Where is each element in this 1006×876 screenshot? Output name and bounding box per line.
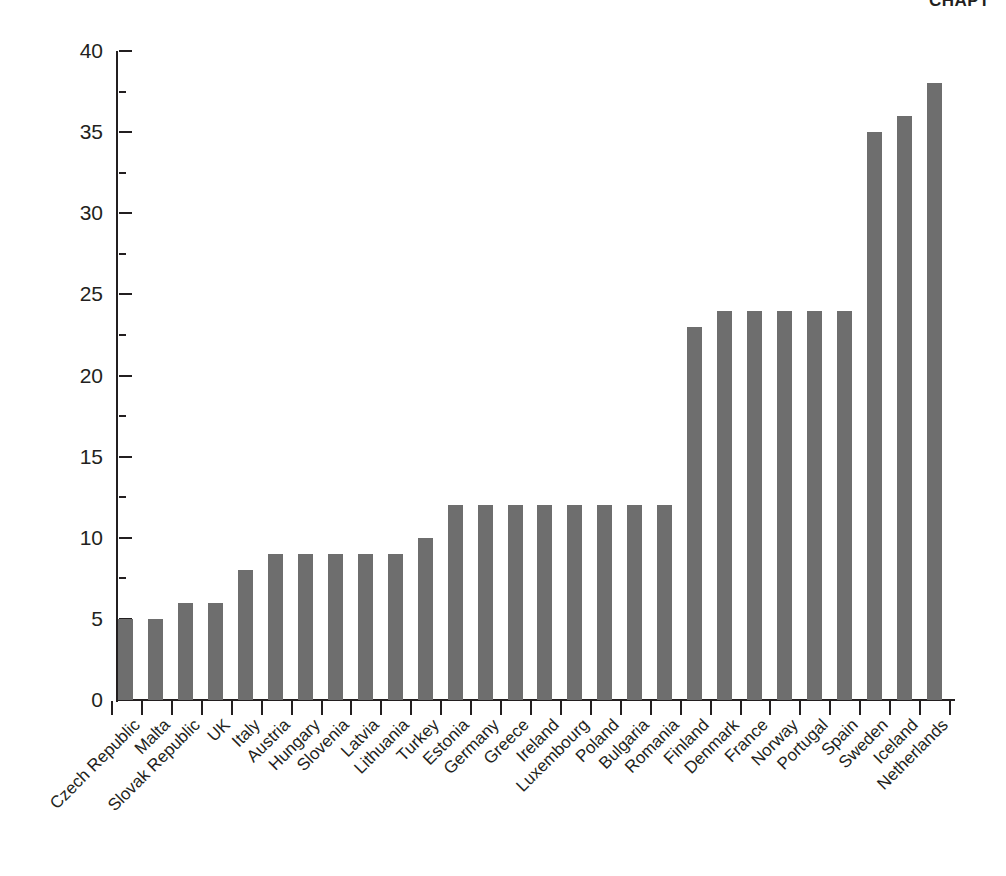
bar: [508, 505, 523, 700]
bar: [837, 311, 852, 700]
bar: [238, 570, 253, 700]
y-axis-tick-label: 40: [47, 40, 103, 61]
bar: [927, 83, 942, 700]
bar: [567, 505, 582, 700]
bar: [627, 505, 642, 700]
bar: [478, 505, 493, 700]
bar: [867, 132, 882, 700]
bar-series: [117, 51, 955, 700]
y-axis-tick-label: 25: [47, 283, 103, 304]
y-axis-tick-label: 20: [47, 365, 103, 386]
bar: [298, 554, 313, 700]
y-axis-tick-label: 15: [47, 446, 103, 467]
y-axis-tick-label: 30: [47, 202, 103, 223]
bar-chart-figure: 0510152025303540 Czech RepublicMaltaSlov…: [0, 0, 1006, 876]
bar: [448, 505, 463, 700]
x-axis-category-labels: Czech RepublicMaltaSlovak RepublicUKItal…: [0, 700, 1006, 876]
bar: [777, 311, 792, 700]
bar: [208, 603, 223, 700]
bar: [597, 505, 612, 700]
bar: [268, 554, 283, 700]
y-axis-tick-label: 35: [47, 121, 103, 142]
bar: [418, 538, 433, 700]
bar: [118, 619, 133, 700]
y-axis-tick-label: 10: [47, 527, 103, 548]
y-axis-tick-label: 5: [47, 608, 103, 629]
bar: [358, 554, 373, 700]
bar: [897, 116, 912, 700]
bar: [717, 311, 732, 700]
x-axis-category-label-wrapper: UK: [204, 716, 233, 745]
bar: [537, 505, 552, 700]
bar: [687, 327, 702, 700]
x-axis-category-label: UK: [204, 716, 233, 745]
bar: [657, 505, 672, 700]
bar: [328, 554, 343, 700]
bar: [178, 603, 193, 700]
bar: [388, 554, 403, 700]
bar: [747, 311, 762, 700]
bar: [807, 311, 822, 700]
bar: [148, 619, 163, 700]
